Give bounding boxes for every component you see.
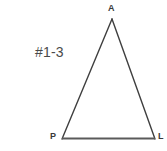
vertex-label-a: A <box>108 4 115 13</box>
vertex-label-l: L <box>158 132 164 141</box>
vertex-label-p: P <box>50 132 56 141</box>
triangle-side-al <box>112 19 155 139</box>
geometry-figure-screenshot: A P L #1-3 <box>0 0 167 151</box>
triangle-side-pa <box>62 19 112 139</box>
triangle-diagram <box>0 0 167 151</box>
problem-number-label: #1-3 <box>35 45 64 59</box>
